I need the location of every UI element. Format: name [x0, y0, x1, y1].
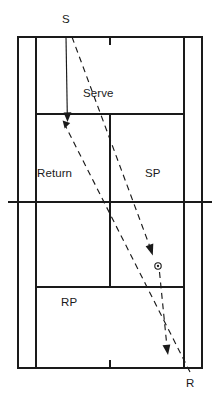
- post-bounce-arrowhead: [163, 345, 171, 355]
- court-graphic: [0, 0, 219, 404]
- tennis-court-diagram: S Serve Return SP RP R: [0, 0, 219, 404]
- receiver-point-label: R: [186, 377, 194, 389]
- return-path-label: Return: [37, 167, 72, 179]
- server-approach-path: [66, 37, 67, 115]
- receiver-partner-zone-label: RP: [61, 296, 77, 308]
- server-point-label: S: [62, 13, 70, 25]
- serve-path-label: Serve: [83, 87, 114, 99]
- server-approach-arrowhead: [64, 112, 72, 122]
- serve-path: [72, 37, 150, 247]
- post-bounce-path: [160, 272, 168, 347]
- serve-arrowhead: [146, 244, 154, 256]
- ball-bounce-marker-center: [157, 265, 159, 267]
- server-partner-zone-label: SP: [145, 167, 161, 179]
- return-path: [66, 126, 191, 372]
